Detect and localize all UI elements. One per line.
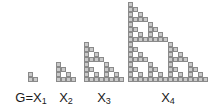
sierpinski-cell [109,67,114,72]
sierpinski-grid-x4 [128,2,208,82]
sierpinski-cell [128,32,133,37]
shape-label-x4: X4 [158,91,178,106]
shape-label-x3-subscript: 3 [106,96,111,106]
sierpinski-cell [114,72,119,77]
sierpinski-cell [193,67,198,72]
sierpinski-grid-x1 [28,72,38,82]
shape-label-x1: G=X1 [2,91,60,106]
sierpinski-cell [128,12,133,17]
sierpinski-cell [168,42,173,47]
sierpinski-cell [84,42,89,47]
sierpinski-cell [133,67,138,72]
shape-label-x2: X2 [56,91,76,106]
sierpinski-cell [153,27,158,32]
shape-label-x3-text: X [97,90,106,105]
sierpinski-cell [128,42,133,47]
sierpinski-cell [168,72,173,77]
sierpinski-cell [128,2,133,7]
sierpinski-cell [128,72,133,77]
sierpinski-cell [198,72,203,77]
sierpinski-cell [84,52,89,57]
sierpinski-cell [168,62,173,67]
shape-group-x1 [28,72,38,82]
sierpinski-cell [158,32,163,37]
sierpinski-cell [84,62,89,67]
shape-group-x2 [56,62,76,82]
sierpinski-cell [133,47,138,52]
sierpinski-cell [178,72,183,77]
sierpinski-cell [153,67,158,72]
sierpinski-cell [89,47,94,52]
sierpinski-cell [173,67,178,72]
sierpinski-cell [104,62,109,67]
sierpinski-cell [99,57,104,62]
sierpinski-cell [71,77,76,82]
sierpinski-figure: G=X1 X2 X3 X4 [0,0,212,108]
sierpinski-cell [158,72,163,77]
sierpinski-cell [173,47,178,52]
sierpinski-cell [94,72,99,77]
sierpinski-cell [66,72,71,77]
shape-label-x1-text: G=X [15,90,41,105]
sierpinski-cell [138,32,143,37]
sierpinski-cell [168,52,173,57]
shape-label-x2-subscript: 2 [68,96,73,106]
sierpinski-cell [138,52,143,57]
sierpinski-cell [148,72,153,77]
sierpinski-cell [128,62,133,67]
sierpinski-cell [84,72,89,77]
sierpinski-grid-x3 [84,42,124,82]
sierpinski-cell [188,72,193,77]
sierpinski-cell [89,67,94,72]
shape-label-x4-text: X [161,90,170,105]
sierpinski-cell [104,72,109,77]
sierpinski-cell [119,77,124,82]
sierpinski-cell [178,52,183,57]
sierpinski-cell [94,52,99,57]
shape-label-x4-subscript: 4 [170,96,175,106]
sierpinski-cell [133,27,138,32]
sierpinski-cell [148,62,153,67]
sierpinski-cell [143,57,148,62]
shape-group-x4 [128,2,208,82]
sierpinski-cell [148,32,153,37]
sierpinski-cell [128,22,133,27]
sierpinski-cell [133,7,138,12]
sierpinski-cell [138,12,143,17]
sierpinski-grid-x2 [56,62,76,82]
sierpinski-cell [56,72,61,77]
sierpinski-cell [148,22,153,27]
sierpinski-cell [33,77,38,82]
shape-label-x3: X3 [94,91,114,106]
sierpinski-cell [183,57,188,62]
sierpinski-cell [138,72,143,77]
sierpinski-cell [163,37,168,42]
shape-group-x3 [84,42,124,82]
sierpinski-cell [188,62,193,67]
sierpinski-cell [203,77,208,82]
sierpinski-cell [143,17,148,22]
sierpinski-cell [128,52,133,57]
sierpinski-cell [56,62,61,67]
sierpinski-cell [28,72,33,77]
shape-label-x1-subscript: 1 [42,96,47,106]
shape-label-x2-text: X [59,90,68,105]
sierpinski-cell [61,67,66,72]
